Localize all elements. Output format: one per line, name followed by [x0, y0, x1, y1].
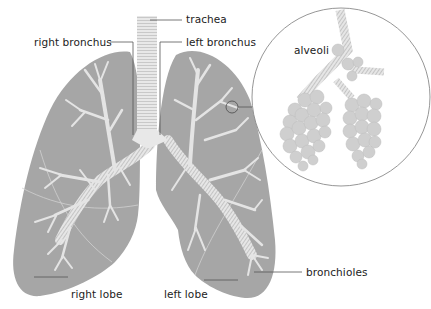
label-right-bronchus: right bronchus	[34, 36, 112, 48]
label-left-lobe: left lobe	[164, 288, 208, 300]
alveoli-inset	[252, 8, 430, 186]
right-lung-shape	[13, 52, 140, 297]
right-lung	[13, 52, 150, 297]
label-right-lobe: right lobe	[71, 288, 122, 300]
label-trachea: trachea	[186, 13, 227, 25]
label-bronchioles: bronchioles	[306, 266, 368, 278]
label-alveoli: alveoli	[294, 44, 329, 56]
label-left-bronchus: left bronchus	[186, 36, 256, 48]
